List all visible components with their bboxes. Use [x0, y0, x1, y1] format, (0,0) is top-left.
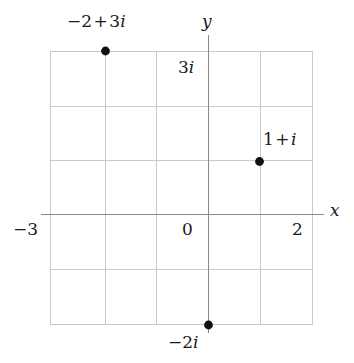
point-label-minus2-plus-3i-real: 2 — [81, 11, 92, 31]
data-points — [101, 47, 264, 330]
point-label-minus2-plus-3i-sign: − — [67, 11, 81, 31]
point-label-minus2-plus-3i-imag-coeff: 3 — [109, 11, 120, 31]
tick-label-y-3i: 3i — [178, 59, 194, 76]
argand-diagram-figure: −2+3i 1+i −2i 0 −3 2 3i x y — [0, 0, 354, 363]
tick-label-x-2: 2 — [292, 221, 303, 238]
point-marker-minus2-plus-3i — [101, 47, 110, 56]
point-label-1-plus-i-real: 1 — [263, 129, 274, 149]
point-label-1-plus-i-unit: i — [291, 129, 296, 149]
tick-label-y-3i-unit: i — [189, 57, 194, 77]
plot-canvas — [0, 0, 354, 363]
point-label-minus2-plus-3i: −2+3i — [67, 13, 126, 30]
point-label-minus-2i-sign: − — [168, 332, 182, 352]
x-axis-label: x — [330, 202, 340, 219]
point-label-minus2-plus-3i-operator: + — [92, 11, 109, 31]
point-label-minus-2i-unit: i — [193, 332, 198, 352]
point-label-1-plus-i-operator: + — [274, 129, 291, 149]
point-label-minus-2i-coeff: 2 — [182, 332, 193, 352]
tick-label-origin: 0 — [182, 221, 193, 238]
point-label-minus-2i: −2i — [168, 334, 199, 351]
tick-label-y-3i-coeff: 3 — [178, 57, 189, 77]
grid-lines-horizontal — [50, 52, 313, 325]
point-marker-minus-2i — [204, 321, 213, 330]
point-label-minus2-plus-3i-unit: i — [120, 11, 125, 31]
point-label-1-plus-i: 1+i — [263, 131, 297, 148]
y-axis-label: y — [202, 13, 212, 30]
point-marker-1-plus-i — [255, 157, 264, 166]
tick-label-x-minus-3: −3 — [13, 221, 38, 238]
grid-lines-vertical — [51, 51, 313, 325]
